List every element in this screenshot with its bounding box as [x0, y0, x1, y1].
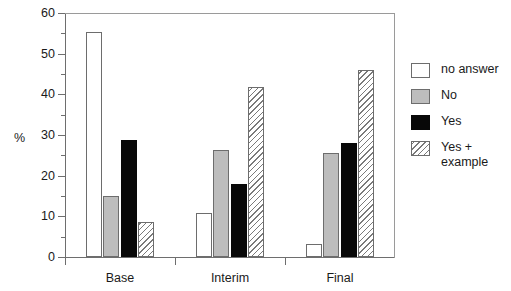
- bar-final-no-answer: [306, 244, 322, 257]
- bar-interim-yes-example: [248, 87, 264, 257]
- x-tick-1: [175, 258, 176, 265]
- bar-final-yes-example: [358, 70, 374, 257]
- legend-swatch-white: [411, 63, 430, 78]
- y-tick-label-20: 20: [41, 169, 55, 182]
- bar-base-no: [103, 196, 119, 257]
- y-tick-0: [58, 257, 65, 258]
- bar-interim-no-answer: [196, 213, 212, 257]
- plot-border-right: [394, 13, 395, 258]
- x-axis-label-interim: Interim: [211, 271, 249, 285]
- legend-item[interactable]: Yes: [411, 114, 511, 131]
- x-axis-line: [65, 257, 395, 258]
- y-tick-label-60: 60: [41, 7, 55, 20]
- bar-base-no-answer: [86, 32, 102, 257]
- y-axis-label: %: [14, 131, 25, 145]
- legend: no answerNoYesYes +example: [411, 62, 511, 179]
- legend-swatch-gray: [411, 89, 430, 104]
- y-tick-60: [58, 13, 65, 14]
- bar-final-no: [323, 153, 339, 257]
- x-axis-label-final: Final: [326, 271, 353, 285]
- plot-border-top: [65, 13, 395, 14]
- legend-label: No: [441, 88, 511, 103]
- legend-label: no answer: [441, 62, 511, 77]
- y-tick-label-10: 10: [41, 210, 55, 223]
- y-tick-minor-35: [61, 115, 65, 116]
- legend-item[interactable]: No: [411, 88, 511, 105]
- legend-item[interactable]: no answer: [411, 62, 511, 79]
- legend-item[interactable]: Yes +example: [411, 140, 511, 170]
- y-tick-minor-15: [61, 196, 65, 197]
- bar-interim-yes: [231, 184, 247, 257]
- y-tick-minor-55: [61, 33, 65, 34]
- y-tick-50: [58, 54, 65, 55]
- y-tick-20: [58, 176, 65, 177]
- y-tick-minor-45: [61, 74, 65, 75]
- x-tick-2: [285, 258, 286, 265]
- y-tick-label-40: 40: [41, 88, 55, 101]
- y-tick-10: [58, 216, 65, 217]
- bar-base-yes: [121, 140, 137, 257]
- bar-final-yes: [341, 143, 357, 257]
- y-tick-40: [58, 94, 65, 95]
- bar-interim-no: [213, 150, 229, 257]
- x-axis-label-base: Base: [106, 271, 135, 285]
- legend-label: Yes: [441, 114, 511, 129]
- y-axis-line: [65, 13, 66, 258]
- legend-swatch-black: [411, 115, 430, 130]
- y-tick-30: [58, 135, 65, 136]
- x-tick-0: [65, 258, 66, 265]
- y-tick-minor-5: [61, 237, 65, 238]
- y-tick-label-50: 50: [41, 47, 55, 60]
- bar-base-yes-example: [138, 222, 154, 257]
- chart-figure: % 0102030405060 BaseInterimFinal no answ…: [0, 0, 511, 291]
- y-tick-label-30: 30: [41, 129, 55, 142]
- legend-swatch-hatched: [411, 141, 430, 156]
- y-tick-label-0: 0: [48, 251, 55, 264]
- plot-area: 0102030405060 BaseInterimFinal: [65, 13, 395, 258]
- legend-label: Yes +example: [441, 140, 511, 170]
- y-tick-minor-25: [61, 155, 65, 156]
